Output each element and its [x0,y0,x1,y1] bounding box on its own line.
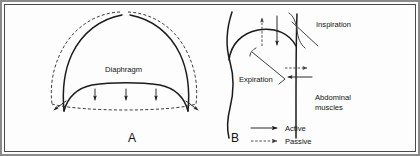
panel-b-letter: B [231,131,239,145]
legend-active-label: Active [285,124,306,133]
legend-passive-label: Passive [285,137,312,146]
panel-b-label-expiration: Expiration [239,75,273,84]
figure-legend: Active Passive [251,124,312,146]
panel-a-group: Diaphragm A [51,12,198,145]
panel-b-back-outline [227,12,233,138]
panel-a-ribcage-dashed-right [128,12,197,104]
figure-artwork: Diaphragm A Inspirati [0,0,420,156]
panel-b-label-inspiration: Inspiration [316,20,351,29]
respiration-figure: Diaphragm A Inspirati [0,0,420,156]
panel-b-label-abdominal-muscles-line1: Abdominal [315,93,351,102]
panel-a-label-diaphragm: Diaphragm [105,65,142,74]
panel-b-label-abdominal-muscles-line2: muscles [315,103,343,112]
panel-a-letter: A [128,131,136,145]
panel-b-abdominal-wall [296,14,297,138]
panel-a-diaphragm-dashed [52,104,196,110]
panel-a-ribcage-dashed-left [51,12,120,104]
